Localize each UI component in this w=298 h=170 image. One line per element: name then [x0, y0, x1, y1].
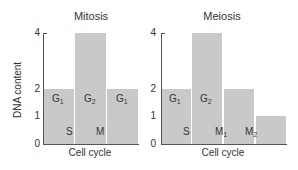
mitosis-x-axis: [43, 144, 139, 145]
mitosis-tick-label-1: 1: [30, 110, 40, 121]
y-axis-label: DNA content: [12, 62, 23, 118]
meiosis-label-g1: G1: [169, 93, 181, 105]
mitosis-tick-4: [43, 33, 47, 34]
mitosis-label-m: M: [96, 126, 104, 137]
meiosis-label-s: S: [183, 126, 190, 137]
meiosis-bar-m2: [256, 116, 286, 144]
mitosis-label-g2: G2: [84, 93, 96, 105]
meiosis-label-m2: M2: [245, 126, 257, 138]
meiosis-x-label: Cell cycle: [183, 147, 263, 158]
mitosis-label-g1: G1: [52, 93, 64, 105]
mitosis-tick-label-4: 4: [30, 27, 40, 38]
meiosis-title: Meiosis: [182, 10, 262, 22]
mitosis-tick-label-0: 0: [30, 138, 40, 149]
meiosis-tick-label-4: 4: [146, 27, 156, 38]
meiosis-label-m1: M1: [215, 126, 227, 138]
meiosis-tick-label-0: 0: [146, 138, 156, 149]
meiosis-tick-label-1: 1: [146, 110, 156, 121]
mitosis-tick-label-2: 2: [30, 83, 40, 94]
meiosis-label-g2: G2: [200, 93, 212, 105]
meiosis-tick-label-2: 2: [146, 83, 156, 94]
mitosis-title: Mitosis: [51, 10, 131, 22]
mitosis-label-g1-second: G1: [116, 93, 128, 105]
mitosis-label-s: S: [66, 126, 73, 137]
meiosis-x-axis: [161, 144, 287, 145]
mitosis-x-label: Cell cycle: [50, 147, 130, 158]
meiosis-tick-4: [161, 33, 165, 34]
